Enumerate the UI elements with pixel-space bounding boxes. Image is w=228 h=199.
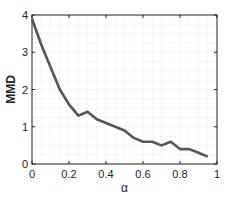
y-tick-label: 0 xyxy=(22,158,28,170)
x-tick-label: 0.4 xyxy=(98,168,113,180)
y-tick-label: 1 xyxy=(22,121,28,133)
y-tick-label: 4 xyxy=(22,9,28,21)
ticks: 00.20.40.60.8101234 xyxy=(22,9,220,180)
y-axis-label: MMD xyxy=(4,75,18,104)
x-axis-label: α xyxy=(121,181,128,195)
y-tick-label: 2 xyxy=(22,84,28,96)
y-tick-label: 3 xyxy=(22,46,28,58)
x-tick-label: 0.8 xyxy=(172,168,187,180)
x-tick-label: 1 xyxy=(214,168,220,180)
x-tick-label: 0 xyxy=(29,168,35,180)
x-tick-label: 0.6 xyxy=(135,168,150,180)
mmd-line-chart: 00.20.40.60.8101234 α MMD xyxy=(0,0,228,199)
x-tick-label: 0.2 xyxy=(61,168,76,180)
